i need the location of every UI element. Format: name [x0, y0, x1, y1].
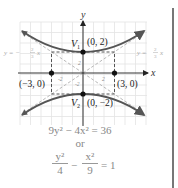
tick-x-neg2: -2: [58, 76, 63, 82]
asymptote-left-label: y = − 2 3 x: [3, 47, 41, 59]
equation-rhs: = 1: [101, 159, 115, 171]
hyperbola-graph: y x -2 2 2 -2 V1 (0, 2) V2 (0, −2) (−3, …: [0, 0, 178, 130]
standard-form-equation: y² 4 − x² 9 = 1: [52, 150, 122, 184]
svg-text:3: 3: [154, 54, 157, 59]
asymptote-right-label: y = 2 3 x: [136, 47, 164, 59]
standard-equation: 9y² − 4x² = 36: [0, 124, 160, 136]
point-3-0-label: (3, 0): [117, 79, 138, 90]
point-neg3-0: [49, 70, 54, 75]
svg-text:2: 2: [31, 47, 34, 52]
svg-text:x: x: [36, 49, 41, 57]
tick-y-pos2: 2: [78, 60, 81, 66]
y-axis-label: y: [80, 9, 86, 20]
hyperbola-figure: y x -2 2 2 -2 V1 (0, 2) V2 (0, −2) (−3, …: [0, 0, 178, 188]
point-neg3-0-label: (−3, 0): [19, 79, 45, 90]
vertex-v2-point: [80, 91, 85, 96]
or-text: or: [0, 137, 160, 149]
svg-text:y = −: y = −: [3, 49, 20, 57]
svg-text:3: 3: [31, 54, 34, 59]
vertex-v2-label: V2: [71, 97, 80, 109]
svg-text:x: x: [159, 49, 164, 57]
vertex-v2-coords: (0, −2): [87, 98, 113, 109]
x-axis-label: x: [150, 67, 156, 78]
vertex-v1-point: [80, 49, 85, 54]
tick-x-pos2: 2: [102, 76, 105, 82]
fraction-y-squared-over-4: y² 4: [52, 150, 68, 177]
svg-text:y =: y =: [136, 49, 147, 57]
vertex-v1-coords: (0, 2): [87, 37, 108, 48]
minus-sign: −: [71, 159, 77, 171]
fraction-x-squared-over-9: x² 9: [82, 150, 98, 177]
svg-text:2: 2: [154, 47, 157, 52]
vertex-v1-label: V1: [71, 38, 80, 50]
vertical-divider: [172, 8, 174, 188]
tick-y-neg2: -2: [75, 81, 80, 87]
point-3-0: [112, 70, 117, 75]
